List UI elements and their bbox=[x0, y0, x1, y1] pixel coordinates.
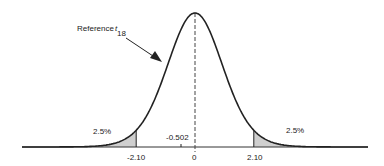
reference-df-subscript: 18 bbox=[117, 29, 126, 38]
tick-label-zero: 0 bbox=[192, 153, 197, 162]
left-tail-shaded-region bbox=[22, 130, 136, 147]
right-tail-label: 2.5% bbox=[286, 126, 304, 135]
observed-value-label: -0.502 bbox=[166, 133, 189, 142]
tick-label-left-crit: -2.10 bbox=[127, 153, 146, 162]
left-tail-label: 2.5% bbox=[93, 127, 111, 136]
tick-label-right-crit: 2.10 bbox=[247, 153, 263, 162]
reference-arrow-line bbox=[126, 38, 156, 58]
right-tail-shaded-region bbox=[254, 130, 368, 147]
reference-label: Reference bbox=[77, 24, 114, 33]
arrowhead-icon bbox=[150, 51, 162, 62]
t-distribution-chart: Reference t 18 2.5% 2.5% -0.502 -2.10 0 … bbox=[0, 0, 384, 166]
